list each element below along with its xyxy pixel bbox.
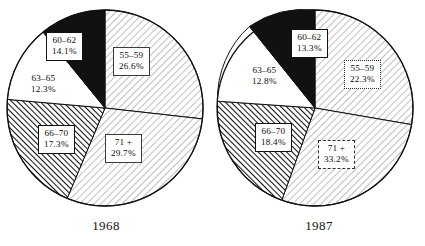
slice-label-63-65: 63–65 12.3% bbox=[25, 70, 62, 99]
slice-label-range: 60–62 bbox=[52, 35, 77, 46]
slice-label-range: 60–62 bbox=[297, 32, 322, 43]
pie-1968-graphic bbox=[0, 0, 212, 246]
pie-panel-1987: 60–62 13.3% 55–59 22.3% 63–65 12.8% 66–7… bbox=[213, 0, 425, 246]
slice-label-71-plus: 71 + 33.2% bbox=[318, 140, 355, 169]
slice-label-range: 66–70 bbox=[44, 128, 69, 139]
slice-label-pct: 18.4% bbox=[261, 137, 286, 148]
slice-label-66-70: 66–70 17.3% bbox=[38, 125, 75, 154]
slice-label-pct: 14.1% bbox=[52, 46, 77, 57]
pie-chart-figure: 60–62 14.1% 55–59 26.6% 63–65 12.3% 66–7… bbox=[0, 0, 425, 246]
slice-label-pct: 12.8% bbox=[252, 76, 277, 87]
slice-label-63-65: 63–65 12.8% bbox=[246, 62, 283, 91]
slice-label-pct: 29.7% bbox=[111, 148, 136, 159]
slice-label-range: 55–59 bbox=[350, 63, 375, 74]
slice-label-pct: 26.6% bbox=[119, 61, 144, 72]
slice-label-55-59: 55–59 22.3% bbox=[344, 60, 381, 89]
slice-label-range: 63–65 bbox=[252, 65, 277, 76]
pie-panel-1968: 60–62 14.1% 55–59 26.6% 63–65 12.3% 66–7… bbox=[0, 0, 212, 246]
slice-label-pct: 22.3% bbox=[350, 74, 375, 85]
slice-label-range: 71 + bbox=[324, 143, 349, 154]
slice-label-range: 66–70 bbox=[261, 126, 286, 137]
slice-label-pct: 13.3% bbox=[297, 43, 322, 54]
slice-label-60-62: 60–62 13.3% bbox=[291, 29, 328, 58]
slice-label-71-plus: 71 + 29.7% bbox=[105, 134, 142, 163]
slice-label-60-62: 60–62 14.1% bbox=[46, 32, 83, 61]
chart-caption-1987: 1987 bbox=[213, 218, 425, 234]
slice-label-pct: 12.3% bbox=[31, 84, 56, 95]
slice-label-range: 55–59 bbox=[119, 50, 144, 61]
slice-label-pct: 33.2% bbox=[324, 154, 349, 165]
slice-label-range: 63–65 bbox=[31, 73, 56, 84]
slice-label-66-70: 66–70 18.4% bbox=[255, 123, 292, 152]
chart-caption-1968: 1968 bbox=[0, 218, 212, 234]
slice-label-pct: 17.3% bbox=[44, 139, 69, 150]
slice-label-55-59: 55–59 26.6% bbox=[113, 47, 150, 76]
slice-label-range: 71 + bbox=[111, 137, 136, 148]
